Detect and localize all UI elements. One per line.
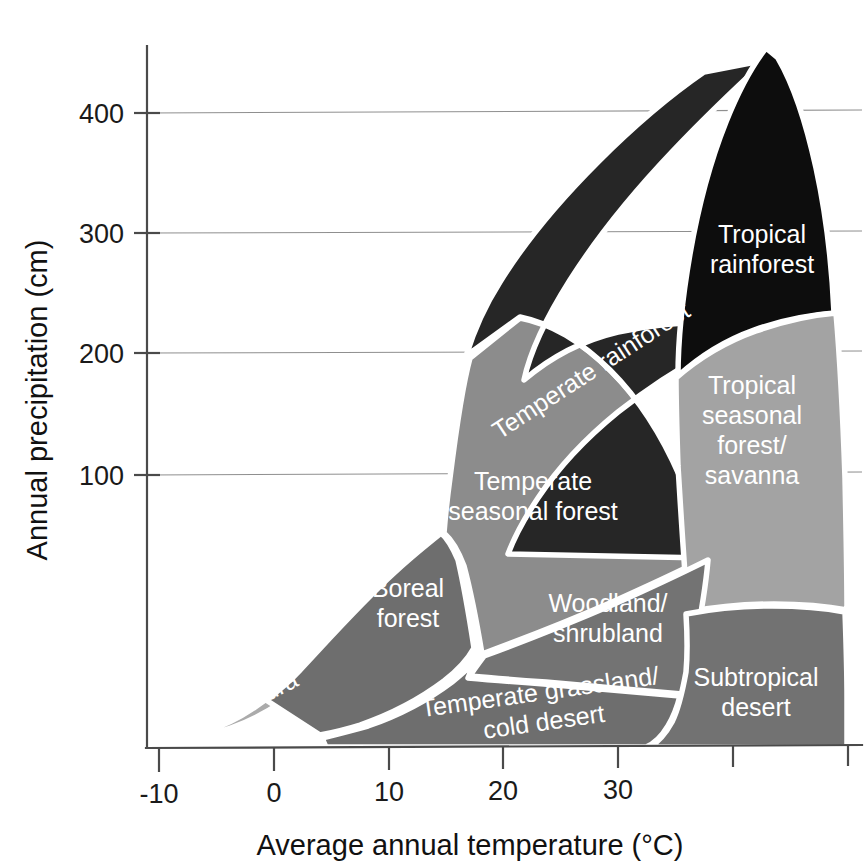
y-tick-label-100: 100: [79, 461, 124, 491]
biome-label-boreal-forest-line-0: Boreal: [372, 574, 444, 602]
x-tick-label-20: 20: [488, 776, 518, 806]
biome-diagram-svg: Tundra Boreal forest Temperate seasonal …: [0, 0, 865, 864]
x-tick-label-10: 10: [374, 777, 404, 807]
biome-label-woodland-shrubland-line-0: Woodland/: [548, 589, 667, 617]
biome-label-boreal-forest-line-1: forest: [377, 604, 440, 632]
biome-label-tropical-seasonal-forest-savanna-line-3: savanna: [705, 461, 800, 489]
biome-label-woodland-shrubland-line-1: shrubland: [553, 619, 663, 647]
x-tick-label--10: -10: [139, 779, 178, 809]
y-tick-label-200: 200: [79, 339, 124, 369]
biome-label-tropical-seasonal-forest-savanna-line-1: seasonal: [702, 401, 802, 429]
x-tick-label-0: 0: [266, 778, 281, 808]
y-tick-label-300: 300: [79, 219, 124, 249]
biome-label-tropical-rainforest-line-1: rainforest: [710, 250, 814, 278]
biome-label-temperate-seasonal-forest-line-0: Temperate: [474, 467, 592, 495]
x-tick-label-30: 30: [603, 775, 633, 805]
x-axis-title: Average annual temperature (°C): [257, 829, 684, 861]
biome-label-tropical-seasonal-forest-savanna-line-0: Tropical: [708, 371, 796, 399]
y-tick-label-400: 400: [79, 99, 124, 129]
biome-label-tropical-seasonal-forest-savanna-line-2: forest/: [717, 431, 787, 459]
biome-label-subtropical-desert-line-1: desert: [721, 693, 791, 721]
biome-label-temperate-seasonal-forest-line-1: seasonal forest: [448, 497, 618, 525]
biome-label-tropical-rainforest-line-0: Tropical: [718, 220, 806, 248]
y-axis-title: Annual precipitation (cm): [21, 240, 53, 561]
whittaker-biome-chart: Tundra Boreal forest Temperate seasonal …: [0, 0, 865, 864]
biome-label-subtropical-desert-line-0: Subtropical: [693, 663, 818, 691]
